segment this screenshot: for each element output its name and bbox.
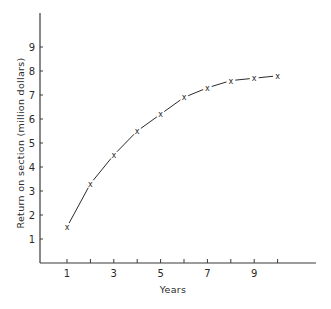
data-point-marker: x bbox=[88, 180, 93, 189]
data-point-marker: x bbox=[228, 77, 233, 86]
series-segment bbox=[141, 117, 157, 129]
x-tick-label: 3 bbox=[111, 268, 117, 279]
series-segment bbox=[164, 100, 180, 112]
x-tick-label: 9 bbox=[251, 268, 257, 279]
series-segment bbox=[212, 82, 227, 87]
x-axis-title: Years bbox=[159, 284, 187, 295]
data-point-marker: x bbox=[65, 223, 70, 232]
y-tick-label: 1 bbox=[29, 234, 35, 245]
y-tick-label: 7 bbox=[29, 90, 35, 101]
axes bbox=[40, 13, 316, 263]
y-tick-label: 2 bbox=[29, 210, 35, 221]
series-segment bbox=[117, 134, 134, 152]
x-tick-label: 7 bbox=[204, 268, 210, 279]
y-tick-label: 9 bbox=[29, 42, 35, 53]
series-segment bbox=[93, 158, 111, 180]
y-tick-label: 6 bbox=[29, 114, 35, 125]
y-tick-label: 3 bbox=[29, 186, 35, 197]
y-tick-label: 8 bbox=[29, 66, 35, 77]
x-tick-label: 1 bbox=[64, 268, 70, 279]
data-point-marker: x bbox=[158, 110, 163, 119]
data-point-marker: x bbox=[252, 74, 257, 83]
data-point-marker: x bbox=[111, 151, 116, 160]
x-ticks: 13579 bbox=[64, 259, 278, 279]
series-segment bbox=[69, 188, 88, 223]
series-segment bbox=[188, 90, 203, 96]
y-tick-label: 5 bbox=[29, 138, 35, 149]
data-series: xxxxxxxxxx bbox=[65, 72, 281, 232]
series-segment bbox=[235, 79, 249, 80]
series-segment bbox=[259, 76, 273, 77]
line-chart: 123456789 13579 xxxxxxxxxx Years Return … bbox=[0, 0, 331, 309]
data-point-marker: x bbox=[205, 84, 210, 93]
y-ticks: 123456789 bbox=[29, 42, 43, 245]
data-point-marker: x bbox=[275, 72, 280, 81]
data-point-marker: x bbox=[182, 93, 187, 102]
y-axis-title: Return on section (million dollars) bbox=[15, 57, 26, 228]
y-tick-label: 4 bbox=[29, 162, 35, 173]
x-tick-label: 5 bbox=[157, 268, 163, 279]
data-point-marker: x bbox=[135, 127, 140, 136]
